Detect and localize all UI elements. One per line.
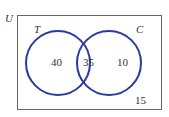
universe-label: U — [5, 12, 14, 24]
t-only-count: 40 — [51, 56, 63, 68]
set-t-label: T — [34, 23, 41, 35]
intersection-count: 35 — [83, 56, 95, 68]
venn-diagram: U T C 40 35 10 15 — [0, 0, 169, 117]
outside-count: 15 — [135, 94, 147, 106]
set-c-label: C — [136, 23, 144, 35]
c-only-count: 10 — [117, 56, 129, 68]
